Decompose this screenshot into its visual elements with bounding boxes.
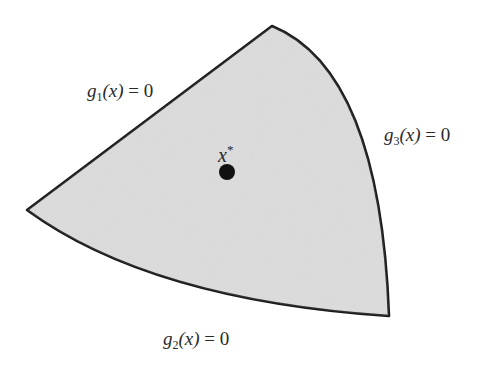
constraint-g3-rhs: = 0 <box>425 124 450 145</box>
optimum-superscript: * <box>227 142 234 157</box>
constraint-g1-symbol: g <box>87 80 97 101</box>
constraint-g2-symbol: g <box>163 328 173 349</box>
constraint-g2-rhs: = 0 <box>204 328 229 349</box>
constraint-g1-arg: (x) <box>103 80 124 101</box>
optimum-label: x* <box>218 142 233 167</box>
feasible-region-diagram <box>0 0 481 368</box>
optimum-symbol: x <box>218 144 227 166</box>
constraint-g3-symbol: g <box>384 124 394 145</box>
constraint-g3-arg: (x) <box>400 124 421 145</box>
region-texture <box>27 26 389 316</box>
constraint-label-g1: g1(x) = 0 <box>87 80 153 105</box>
constraint-label-g2: g2(x) = 0 <box>163 328 229 353</box>
constraint-label-g3: g3(x) = 0 <box>384 124 450 149</box>
constraint-g2-arg: (x) <box>179 328 200 349</box>
constraint-g1-rhs: = 0 <box>128 80 153 101</box>
